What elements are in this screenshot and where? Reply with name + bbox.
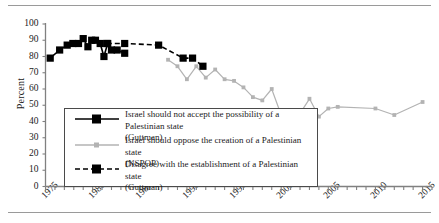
series-marker (232, 79, 236, 83)
series-marker (204, 76, 208, 80)
series-marker (260, 98, 264, 102)
legend-swatch-solid-gray-square (73, 139, 121, 151)
legend-label-line2: (Guttman) (125, 182, 315, 194)
series-marker (251, 95, 255, 99)
series-marker (180, 55, 187, 62)
series-marker (223, 77, 227, 81)
series-marker (97, 40, 104, 47)
series-marker (199, 63, 206, 70)
series-marker (56, 46, 63, 53)
series-marker (374, 107, 378, 111)
series-marker (100, 53, 107, 60)
legend-label-line1: Disagree with the establishment of a Pal… (125, 159, 298, 181)
legend-item-guttman-not-accept: Israel should not accept the possibility… (65, 111, 317, 137)
series-marker (185, 77, 189, 81)
series-marker (114, 46, 121, 53)
figure-container: Percent 1009080706050403020100 197519801… (0, 0, 439, 223)
legend-swatch-solid-black-square (73, 113, 121, 125)
series-marker (80, 35, 87, 42)
data-series-group (47, 35, 425, 119)
series-marker (121, 40, 128, 47)
series-marker (194, 64, 198, 68)
series-marker (421, 100, 425, 104)
series-marker (270, 87, 274, 91)
legend-swatch-dashed-black-square (73, 163, 121, 175)
series-marker (326, 107, 330, 111)
series-marker (155, 42, 162, 49)
series-marker (213, 68, 217, 72)
series-marker (189, 55, 196, 62)
series-marker (166, 58, 170, 62)
series-marker (308, 97, 312, 101)
chart-legend: Israel should not accept the possibility… (64, 108, 318, 187)
series-marker (84, 43, 91, 50)
series-0 (47, 35, 129, 62)
series-marker (392, 113, 396, 117)
legend-item-guttman-disagree: Disagree with the establishment of a Pal… (65, 161, 317, 187)
series-marker (242, 85, 246, 89)
legend-label-guttman-disagree: Disagree with the establishment of a Pal… (125, 159, 315, 194)
legend-label-line1: Israel should oppose the creation of a P… (125, 135, 301, 157)
series-marker (176, 64, 180, 68)
series-2 (103, 40, 206, 70)
series-marker (103, 40, 110, 47)
legend-label-line1: Israel should not accept the possibility… (125, 109, 279, 131)
series-marker (336, 105, 340, 109)
series-marker (47, 55, 54, 62)
series-marker (121, 50, 128, 57)
